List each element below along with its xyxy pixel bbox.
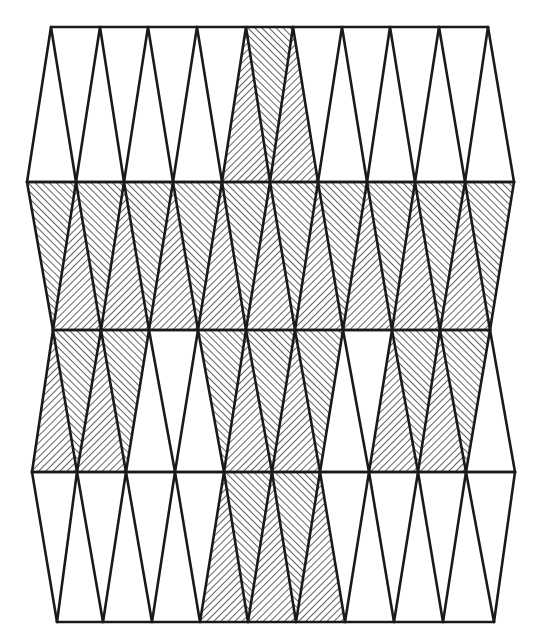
edge-line — [342, 27, 367, 182]
edge-line — [439, 27, 465, 182]
edge-line — [318, 27, 342, 182]
tiling-canvas — [0, 0, 535, 639]
edge-line — [126, 472, 152, 622]
edge-line — [343, 330, 369, 472]
edge-line — [77, 472, 103, 622]
edge-line — [148, 27, 173, 182]
edge-line — [57, 472, 77, 622]
edge-line — [418, 472, 443, 622]
edge-line — [367, 27, 390, 182]
edge-line — [494, 472, 515, 622]
edge-line — [51, 27, 76, 182]
edge-line — [197, 27, 222, 182]
edge-line — [149, 330, 175, 472]
edge-line — [443, 472, 466, 622]
edge-line — [76, 27, 100, 182]
edge-line — [124, 27, 148, 182]
edge-line — [345, 472, 369, 622]
edge-line — [490, 330, 515, 472]
edge-line — [466, 472, 494, 622]
edge-line — [103, 472, 126, 622]
edge-line — [27, 27, 51, 182]
edge-line — [152, 472, 175, 622]
edge-line — [173, 27, 197, 182]
edge-line — [394, 472, 418, 622]
edge-line — [175, 472, 200, 622]
edge-line — [32, 472, 57, 622]
edge-line — [488, 27, 514, 182]
edge-line — [415, 27, 439, 182]
edge-line — [100, 27, 124, 182]
edge-line — [369, 472, 394, 622]
triangle-tiling-diagram — [0, 0, 535, 639]
edge-line — [390, 27, 415, 182]
edge-line — [175, 330, 198, 472]
edge-line — [465, 27, 488, 182]
